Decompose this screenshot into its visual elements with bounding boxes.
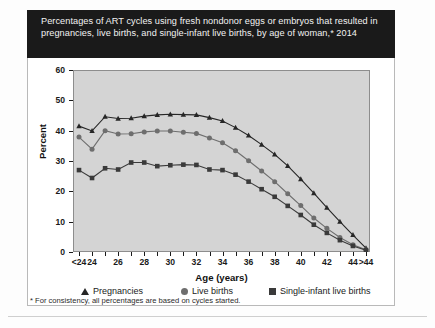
- data-point: [194, 131, 199, 136]
- data-point: [272, 151, 277, 156]
- data-point: [102, 114, 107, 119]
- series-single-infant-live-births: [77, 160, 369, 252]
- x-tick-label: 40: [287, 257, 315, 267]
- x-tick-mark: [275, 252, 276, 256]
- chart-footnote: * For consistency, all percentages are b…: [30, 296, 410, 305]
- y-tick-label: 40: [39, 126, 65, 136]
- x-tick-label: 30: [156, 257, 184, 267]
- data-point: [129, 131, 134, 136]
- x-tick-mark: [92, 252, 93, 256]
- y-tick-label: 30: [39, 156, 65, 166]
- x-tick-mark: [366, 252, 367, 256]
- y-tick-label: 50: [39, 95, 65, 105]
- x-tick-mark: [144, 252, 145, 256]
- x-tick-label: 28: [130, 257, 158, 267]
- x-axis-label: Age (years): [73, 272, 370, 283]
- data-point: [103, 128, 108, 133]
- legend-item-single-infant-live-births: Single-infant live births: [269, 286, 371, 296]
- data-point: [246, 158, 251, 163]
- x-tick-mark: [288, 252, 289, 256]
- x-tick-mark: [157, 252, 158, 256]
- data-point: [168, 128, 173, 133]
- x-tick-label: 26: [104, 257, 132, 267]
- x-tick-mark: [327, 252, 328, 256]
- series-line: [79, 163, 366, 251]
- x-tick-mark: [210, 252, 211, 256]
- x-tick-mark: [131, 252, 132, 256]
- data-point: [272, 194, 277, 199]
- x-tick-label: 34: [209, 257, 237, 267]
- x-tick-mark: [183, 252, 184, 256]
- data-point: [312, 222, 317, 227]
- data-point: [220, 140, 225, 145]
- y-tick-label: 0: [39, 247, 65, 257]
- data-point: [338, 238, 343, 243]
- data-point: [90, 147, 95, 152]
- x-tick-mark: [79, 252, 80, 256]
- x-tick-label: 38: [261, 257, 289, 267]
- data-point: [207, 167, 212, 172]
- x-tick-mark: [249, 252, 250, 256]
- data-point: [259, 169, 264, 174]
- x-tick-mark: [223, 252, 224, 256]
- y-tick-mark: [69, 70, 73, 71]
- data-point: [90, 176, 95, 181]
- figure-container: Percentages of ART cycles using fresh no…: [0, 0, 435, 328]
- y-tick-label: 10: [39, 217, 65, 227]
- x-tick-label: >44: [352, 257, 380, 267]
- chart-title-banner: Percentages of ART cycles using fresh no…: [27, 10, 395, 58]
- triangle-marker-icon: [81, 288, 89, 295]
- y-tick-mark: [69, 191, 73, 192]
- data-point: [207, 135, 212, 140]
- data-point: [246, 179, 251, 184]
- x-tick-mark: [170, 252, 171, 256]
- y-tick-label: 60: [39, 65, 65, 75]
- data-point: [142, 160, 147, 165]
- data-point: [298, 213, 303, 218]
- x-tick-label: 32: [182, 257, 210, 267]
- square-marker-icon: [269, 288, 276, 295]
- data-point: [129, 160, 134, 165]
- y-tick-mark: [69, 222, 73, 223]
- x-tick-label: 36: [235, 257, 263, 267]
- data-point: [259, 187, 264, 192]
- x-tick-mark: [236, 252, 237, 256]
- legend-item-live-births: Live births: [181, 286, 233, 296]
- x-tick-mark: [262, 252, 263, 256]
- data-point: [116, 167, 121, 172]
- data-point: [142, 129, 147, 134]
- x-tick-mark: [353, 252, 354, 256]
- data-point: [103, 166, 108, 171]
- data-point: [259, 142, 264, 147]
- y-tick-label: 20: [39, 186, 65, 196]
- x-tick-label: 42: [313, 257, 341, 267]
- y-tick-mark: [69, 100, 73, 101]
- data-point: [233, 148, 238, 153]
- circle-marker-icon: [181, 288, 188, 295]
- y-tick-mark: [69, 252, 73, 253]
- legend-label: Pregnancies: [93, 286, 143, 296]
- data-point: [220, 168, 225, 173]
- x-tick-mark: [196, 252, 197, 256]
- data-point: [181, 162, 186, 167]
- x-tick-mark: [118, 252, 119, 256]
- page-divider: [8, 316, 427, 317]
- x-tick-mark: [301, 252, 302, 256]
- data-point: [194, 163, 199, 168]
- y-tick-mark: [69, 131, 73, 132]
- x-tick-mark: [340, 252, 341, 256]
- legend-label: Live births: [192, 286, 233, 296]
- y-tick-mark: [69, 161, 73, 162]
- data-point: [285, 191, 290, 196]
- legend-item-pregnancies: Pregnancies: [81, 286, 143, 296]
- data-point: [311, 216, 316, 221]
- data-point: [155, 164, 160, 169]
- data-point: [325, 231, 330, 236]
- data-point: [181, 130, 186, 135]
- legend-label: Single-infant live births: [280, 286, 371, 296]
- data-point: [77, 135, 82, 140]
- data-point: [76, 123, 81, 128]
- data-point: [351, 244, 356, 249]
- data-point: [233, 172, 238, 177]
- data-point: [155, 128, 160, 133]
